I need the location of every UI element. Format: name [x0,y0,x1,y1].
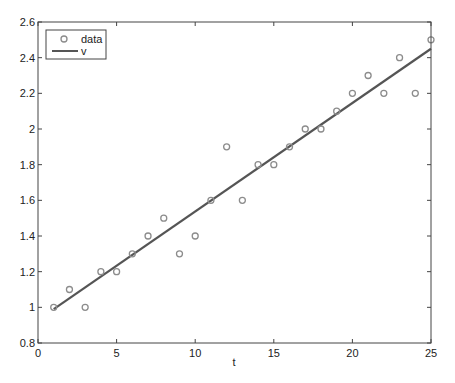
x-tick-label: 10 [189,347,201,359]
y-tick-label: 1.4 [20,230,35,242]
y-tick-label: 2.4 [20,52,35,64]
data-point [318,126,324,132]
fit-line-v [54,49,431,309]
legend-label-v: v [81,45,87,57]
x-tick-label: 5 [114,347,120,359]
y-tick-label: 0.8 [20,337,35,349]
y-tick-label: 1 [29,301,35,313]
data-point [192,233,198,239]
chart: 0510152025 0.811.21.41.61.822.22.42.6 t … [0,0,455,383]
data-point [349,90,355,96]
y-tick-label: 1.8 [20,159,35,171]
data-point [412,90,418,96]
data-point [381,90,387,96]
y-axis-ticks: 0.811.21.41.61.822.22.42.6 [20,16,431,349]
data-point [82,304,88,310]
y-tick-label: 2.2 [20,87,35,99]
line-series [54,49,431,309]
y-tick-label: 1.2 [20,266,35,278]
data-point [302,126,308,132]
data-markers [51,37,434,311]
x-tick-label: 0 [35,347,41,359]
legend-label-data: data [81,33,103,45]
x-tick-label: 20 [346,347,358,359]
data-point [145,233,151,239]
x-tick-label: 25 [425,347,437,359]
x-tick-label: 15 [268,347,280,359]
data-point [66,287,72,293]
y-tick-label: 2 [29,123,35,135]
data-point [114,269,120,275]
x-axis-label: t [232,356,235,368]
data-point [161,215,167,221]
data-point [271,162,277,168]
data-point [239,197,245,203]
axes-box [38,22,431,343]
data-point [224,144,230,150]
data-point [176,251,182,257]
legend: data v [46,30,106,59]
data-point [365,73,371,79]
data-point [397,55,403,61]
y-tick-label: 1.6 [20,194,35,206]
y-tick-label: 2.6 [20,16,35,28]
data-point [98,269,104,275]
x-axis-ticks: 0510152025 [35,22,437,359]
